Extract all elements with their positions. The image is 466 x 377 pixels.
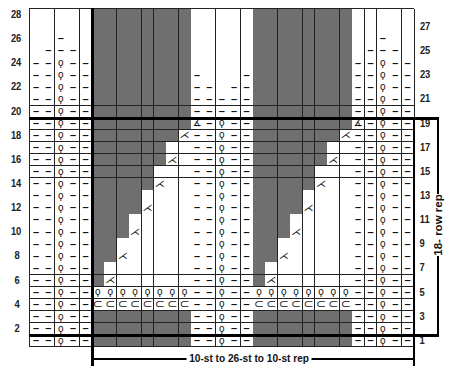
purl-icon: – bbox=[352, 166, 364, 178]
twisted-knit-icon: ϙ bbox=[377, 238, 389, 250]
no-stitch-cell bbox=[253, 262, 266, 275]
twisted-knit-icon: ϙ bbox=[377, 214, 389, 226]
no-stitch-cell bbox=[315, 142, 328, 155]
stitch-cell bbox=[303, 214, 316, 227]
stitch-cell bbox=[179, 202, 192, 215]
twisted-knit-icon: ϙ bbox=[104, 287, 116, 299]
twisted-knit-icon: ϙ bbox=[55, 287, 67, 299]
stitch-cell: ϙ bbox=[377, 238, 390, 251]
row-number-label: 7 bbox=[420, 261, 425, 273]
twisted-knit-icon: ϙ bbox=[377, 166, 389, 178]
twisted-knit-icon: ϙ bbox=[55, 323, 67, 335]
stitch-cell: ⊂ bbox=[315, 299, 328, 312]
purl-icon: – bbox=[352, 57, 364, 69]
stitch-cell: ϙ bbox=[55, 142, 68, 155]
purl-icon: – bbox=[80, 287, 92, 299]
stitch-cell: – bbox=[42, 226, 55, 239]
purl-icon: – bbox=[67, 311, 79, 323]
no-stitch-cell bbox=[290, 81, 303, 94]
purl-icon: – bbox=[80, 262, 92, 274]
stitch-cell: ϙ bbox=[216, 226, 229, 239]
twisted-knit-icon: ϙ bbox=[154, 287, 166, 299]
purl-icon: – bbox=[80, 226, 92, 238]
purl-icon: – bbox=[67, 154, 79, 166]
stitch-cell bbox=[278, 275, 291, 288]
stitch-cell bbox=[303, 250, 316, 263]
stitch-cell bbox=[340, 166, 353, 179]
purl-icon: – bbox=[191, 142, 203, 154]
purl-icon: – bbox=[203, 202, 215, 214]
stitch-cell bbox=[191, 9, 204, 22]
no-stitch-cell bbox=[315, 154, 328, 167]
stitch-cell: ⋌ bbox=[166, 154, 179, 167]
stitch-cell: ϙ bbox=[55, 299, 68, 312]
no-stitch-cell bbox=[303, 130, 316, 143]
no-stitch-cell bbox=[117, 202, 130, 215]
no-stitch-cell bbox=[179, 69, 192, 82]
purl-icon: – bbox=[30, 214, 42, 226]
stitch-cell: ⊂ bbox=[142, 299, 155, 312]
stitch-cell: ⊂ bbox=[327, 299, 340, 312]
purl-icon: – bbox=[228, 130, 240, 142]
stitch-cell: ϙ bbox=[216, 154, 229, 167]
wrap-icon: ⊂ bbox=[340, 299, 352, 311]
twisted-knit-icon: ϙ bbox=[216, 190, 228, 202]
stitch-cell: ϙ bbox=[377, 154, 390, 167]
twisted-knit-icon: ϙ bbox=[55, 226, 67, 238]
stitch-cell: ⊂ bbox=[166, 299, 179, 312]
stitch-cell: ϙ bbox=[377, 142, 390, 155]
stitch-cell: ϙ bbox=[55, 214, 68, 227]
no-stitch-cell bbox=[104, 202, 117, 215]
twisted-knit-icon: ϙ bbox=[55, 250, 67, 262]
purl-icon: – bbox=[67, 178, 79, 190]
no-stitch-cell bbox=[265, 250, 278, 263]
stitch-cell: ⋌ bbox=[142, 202, 155, 215]
no-stitch-cell bbox=[154, 142, 167, 155]
no-stitch-cell bbox=[315, 81, 328, 94]
no-stitch-cell bbox=[265, 202, 278, 215]
stitch-cell bbox=[142, 214, 155, 227]
no-stitch-cell bbox=[117, 69, 130, 82]
stitch-cell bbox=[340, 250, 353, 263]
row-number-label: 21 bbox=[420, 92, 430, 104]
purl-icon: – bbox=[352, 190, 364, 202]
purl-icon: – bbox=[80, 130, 92, 142]
purl-icon: – bbox=[365, 287, 377, 299]
purl-icon: – bbox=[241, 262, 253, 274]
purl-icon: – bbox=[389, 311, 401, 323]
purl-icon: – bbox=[30, 69, 42, 81]
no-stitch-cell bbox=[265, 69, 278, 82]
no-stitch-cell bbox=[104, 142, 117, 155]
twisted-knit-icon: ϙ bbox=[55, 311, 67, 323]
stitch-cell: ϙ bbox=[377, 130, 390, 143]
purl-icon: – bbox=[191, 250, 203, 262]
purl-icon: – bbox=[389, 226, 401, 238]
purl-icon: – bbox=[67, 214, 79, 226]
no-stitch-cell bbox=[315, 93, 328, 106]
no-stitch-cell bbox=[340, 9, 353, 22]
no-stitch-cell bbox=[327, 9, 340, 22]
stitch-cell: – bbox=[352, 57, 365, 70]
stitch-cell: ⋌ bbox=[340, 130, 353, 143]
no-stitch-cell bbox=[253, 226, 266, 239]
purl-icon: – bbox=[55, 33, 67, 45]
stitch-cell: ⊂ bbox=[278, 299, 291, 312]
stitch-cell bbox=[228, 9, 241, 22]
no-stitch-cell bbox=[117, 57, 130, 70]
no-stitch-cell bbox=[129, 130, 142, 143]
knitting-chart: ––––––––––ϙ––––ϙ––––ϙ––––––ϙ––––ϙ–––––––… bbox=[0, 0, 466, 377]
no-stitch-cell bbox=[253, 202, 266, 215]
stitch-cell: – bbox=[228, 238, 241, 251]
purl-icon: – bbox=[30, 178, 42, 190]
no-stitch-cell bbox=[253, 166, 266, 179]
stitch-cell bbox=[117, 238, 130, 251]
no-stitch-cell bbox=[278, 190, 291, 203]
no-stitch-cell bbox=[265, 178, 278, 191]
no-stitch-cell bbox=[253, 33, 266, 46]
purl-icon: – bbox=[228, 214, 240, 226]
purl-icon: – bbox=[203, 190, 215, 202]
purl-icon: – bbox=[80, 81, 92, 93]
purl-icon: – bbox=[402, 250, 414, 262]
no-stitch-cell bbox=[129, 9, 142, 22]
stitch-cell bbox=[402, 9, 415, 22]
